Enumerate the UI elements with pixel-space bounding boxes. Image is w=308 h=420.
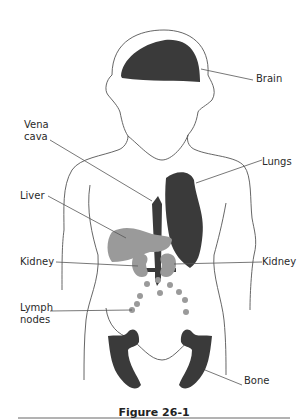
lungs-shape — [165, 172, 203, 268]
kidney-left-label: Kidney — [20, 256, 54, 268]
kidney-left-shape — [132, 254, 148, 277]
kidney-right-shape — [160, 254, 176, 277]
figure-caption: Figure 26-1 — [0, 406, 308, 419]
brain-label: Brain — [256, 73, 282, 85]
lymph-nodes-label: Lymph nodes — [20, 302, 53, 326]
body-diagram — [0, 0, 308, 420]
bone-right-shape — [179, 330, 212, 389]
kidney-right-label: Kidney — [262, 256, 296, 268]
bone-label: Bone — [244, 375, 269, 387]
vena-cava-label: Vena cava — [24, 119, 49, 143]
liver-label: Liver — [20, 190, 45, 202]
lungs-label: Lungs — [262, 156, 292, 168]
brain-shape — [121, 40, 200, 82]
bone-left-shape — [108, 330, 141, 389]
lymph-nodes-shape — [129, 281, 189, 315]
